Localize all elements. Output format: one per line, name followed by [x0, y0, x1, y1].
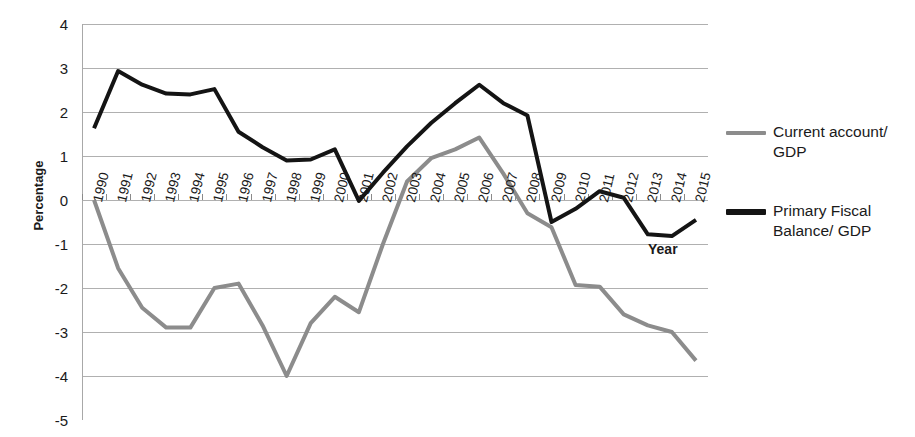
legend-entry[interactable]: Primary Fiscal Balance/ GDP	[726, 201, 911, 242]
legend-entry[interactable]: Current account/ GDP	[726, 122, 911, 163]
chart-container: Percentage 43210-1-2-3-4-5 1990199119921…	[0, 0, 915, 437]
chart-legend: Current account/ GDPPrimary Fiscal Balan…	[726, 122, 911, 280]
x-axis-tick-labels: 1990199119921993199419951996199719981999…	[82, 200, 722, 280]
legend-swatch-line-icon	[726, 209, 766, 215]
y-tick-label: 1	[34, 149, 68, 164]
x-axis-title: Year	[648, 241, 678, 257]
y-tick-label: -1	[34, 237, 68, 252]
y-tick-label: 3	[34, 61, 68, 76]
y-tick-label: 0	[34, 193, 68, 208]
y-tick-label: -5	[34, 413, 68, 428]
y-tick-label: -4	[34, 369, 68, 384]
y-tick-label: 2	[34, 105, 68, 120]
legend-swatch-line-icon	[726, 131, 766, 135]
y-tick-label: 4	[34, 17, 68, 32]
legend-label: Current account/ GDP	[773, 122, 911, 163]
y-tick-label: -2	[34, 281, 68, 296]
y-axis-tick-labels: 43210-1-2-3-4-5	[30, 0, 68, 437]
legend-label: Primary Fiscal Balance/ GDP	[773, 201, 911, 242]
y-tick-label: -3	[34, 325, 68, 340]
